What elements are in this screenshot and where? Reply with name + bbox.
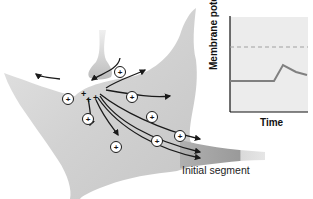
presynaptic-terminal	[88, 30, 112, 79]
neuron-diagram: + + + + + + + + + + +	[0, 0, 313, 199]
svg-text:+: +	[178, 132, 183, 141]
graph-y-label: Membrane potential	[208, 0, 219, 70]
initial-segment-label: Initial segment	[182, 164, 250, 176]
membrane-potential-graph	[230, 16, 308, 112]
svg-text:+: +	[86, 95, 91, 105]
svg-text:+: +	[93, 93, 98, 103]
svg-text:+: +	[86, 115, 91, 124]
svg-text:+: +	[118, 68, 123, 77]
svg-text:+: +	[130, 93, 135, 102]
graph-x-label: Time	[260, 117, 283, 128]
svg-text:+: +	[155, 137, 160, 146]
svg-text:+: +	[150, 113, 155, 122]
svg-text:+: +	[66, 95, 71, 104]
svg-text:+: +	[114, 143, 119, 152]
